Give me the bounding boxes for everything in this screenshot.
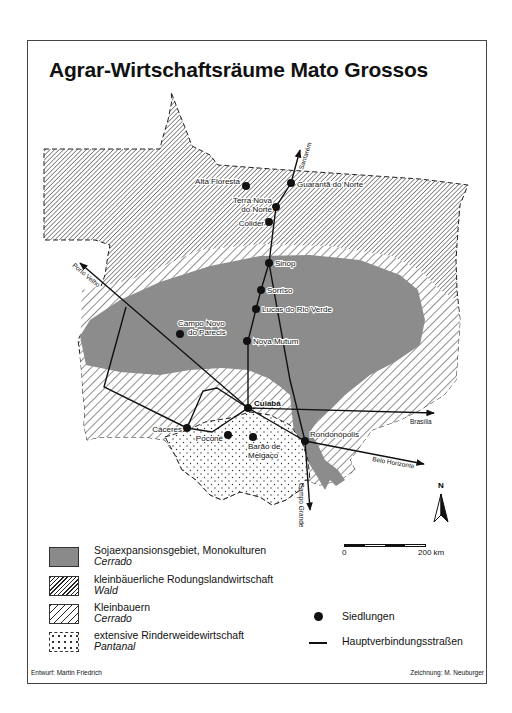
label-porto-velho: Porto Velho: [71, 261, 102, 288]
label-campo-novo-2: do Parecis: [188, 328, 226, 337]
label-belo-horizonte: Belo Horizonte: [372, 455, 416, 469]
settlement-dot: [265, 218, 273, 226]
label-barao-2: Melgaço: [248, 451, 279, 460]
label-cuiaba: Cuiabá: [254, 399, 281, 408]
legend-item-kleinbauern: KleinbauernCerrado: [49, 602, 309, 632]
label-colider: Colider: [239, 219, 265, 228]
north-arrow-icon: N: [434, 481, 448, 522]
label-campo-novo-1: Campo Novo: [178, 319, 225, 328]
legend-item-soja: Sojaexpansionsgebiet, MonokulturenCerrad…: [49, 545, 309, 575]
label-lucas: Lucas do Rio Verde: [262, 305, 332, 314]
settlement-dot: [183, 424, 191, 432]
legend-sublabel: Cerrado: [94, 613, 150, 624]
legend-item-pantanal: extensive RinderweidewirtschaftPantanal: [49, 630, 309, 660]
label-pocone: Poconé: [196, 434, 224, 443]
settlement-dot: [265, 259, 273, 267]
settlement-dot: [257, 286, 265, 294]
label-caceres: Cáceres: [152, 425, 182, 434]
road-line-icon: [309, 642, 327, 644]
label-sorriso: Sorriso: [267, 286, 293, 295]
settlement-dot: [287, 179, 295, 187]
swatch-dots: [49, 632, 79, 652]
settlement-dot: [252, 305, 260, 313]
credit-author: Entwurf: Martin Friedrich: [31, 669, 102, 676]
label-brasilia: Brasília: [410, 418, 432, 425]
swatch-solid-gray: [49, 547, 79, 567]
settlement-dot: [272, 203, 280, 211]
label-campo-grande: Campo Grande: [297, 483, 305, 528]
svg-text:N: N: [438, 481, 444, 490]
legend-label: kleinbäuerliche Rodungslandwirtschaft: [94, 573, 273, 585]
scale-end-label: 200 km: [418, 548, 444, 557]
credit-drawing: Zeichnung: M. Neuburger: [410, 669, 484, 676]
label-nova-mutum: Nova Mutum: [253, 337, 299, 346]
legend-label: Siedlungen: [342, 610, 395, 622]
settlement-dot: [301, 437, 309, 445]
label-guaranta: Guarantã do Norte: [297, 180, 364, 189]
swatch-dense-hatch: [49, 576, 79, 596]
scale-bar-graphic: [344, 544, 426, 547]
scale-start-label: 0: [342, 548, 346, 557]
label-alta-floresta: Alta Floresta: [195, 177, 240, 186]
label-terra-nova-2: do Norte: [241, 205, 272, 214]
settlement-dot: [244, 404, 252, 412]
settlement-dot: [242, 182, 250, 190]
settlement-dot: [224, 431, 232, 439]
legend-sublabel: Cerrado: [94, 556, 266, 567]
settlement-dot: [243, 337, 251, 345]
label-barao-1: Barão de: [248, 442, 281, 451]
settlement-dot-icon: [314, 612, 323, 621]
settlement-dot: [249, 433, 257, 441]
legend-sublabel: Pantanal: [94, 641, 244, 652]
legend-label: Hauptverbindungsstraßen: [342, 635, 463, 647]
legend-sublabel: Wald: [94, 585, 273, 596]
settlement-dot: [176, 330, 184, 338]
label-terra-nova-1: Terra Nova: [233, 196, 273, 205]
label-rondonopolis: Rondonópolis: [310, 430, 359, 439]
label-sinop: Sinop: [275, 259, 296, 268]
swatch-wide-hatch: [49, 604, 79, 624]
label-santarem: Santarém: [297, 141, 312, 170]
legend-item-wald: kleinbäuerliche RodungslandwirtschaftWal…: [49, 574, 309, 604]
